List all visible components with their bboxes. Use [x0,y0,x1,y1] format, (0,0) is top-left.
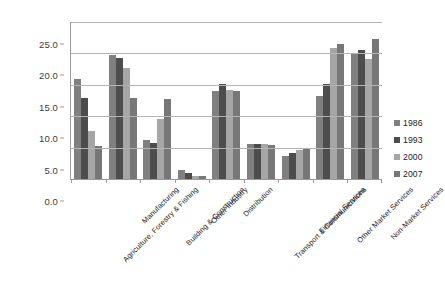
bar-2007-2 [164,99,171,179]
bar-group [71,22,106,179]
bar-2007-0 [95,146,102,179]
bar-2000-8 [365,59,372,179]
bar-2007-4 [233,91,240,179]
bar-2007-5 [268,145,275,179]
bar-1986-2 [143,140,150,179]
y-axis-tick-mark [60,106,64,107]
x-axis-tick-mark [209,179,210,183]
legend-item-1993[interactable]: 1993 [394,131,439,148]
y-axis-tick-label: 5.0 [44,164,58,175]
y-axis-tick-mark [60,201,64,202]
bar-1986-7 [316,96,323,179]
bar-group [278,22,313,179]
bar-group [347,22,382,179]
bar-2000-5 [261,144,268,179]
x-axis-tick-mark [140,179,141,183]
y-axis-tick-label: 15.0 [39,101,58,112]
legend-item-1986[interactable]: 1986 [394,114,439,131]
legend-swatch-icon [394,154,400,160]
bar-2000-3 [192,176,199,179]
x-axis-category-label: Agriculture, Forestry & Fishing [121,185,200,264]
x-axis-category-label: Distribution [241,185,274,218]
x-axis-tick-mark [347,179,348,183]
bar-1993-4 [219,84,226,179]
bar-1993-5 [254,144,261,179]
legend-label: 2000 [403,152,423,162]
x-axis-category-label: Transport & Communications [293,185,369,261]
gridline [71,53,382,54]
bar-2000-2 [157,119,164,179]
bar-2007-7 [337,44,344,179]
legend-swatch-icon [394,120,400,126]
y-axis-tick-mark [60,169,64,170]
legend-swatch-icon [394,171,400,177]
bar-group [140,22,175,179]
y-axis-tick-label: 10.0 [39,133,58,144]
bar-2000-7 [330,48,337,179]
gridline [71,85,382,86]
legend-label: 1986 [403,118,423,128]
bar-1993-3 [185,173,192,179]
bar-1986-3 [178,170,185,179]
bar-2000-6 [296,150,303,179]
bar-1986-5 [247,144,254,179]
x-axis-category-label: Other Industry [209,185,249,225]
plot-area [70,22,382,180]
bar-1993-1 [116,58,123,179]
y-axis-tick-mark [60,138,64,139]
x-axis-tick-mark [381,179,382,183]
bar-2007-1 [130,98,137,179]
y-axis-tick-mark [60,44,64,45]
x-axis-category-label: Other Market Services [355,185,415,245]
x-axis-tick-mark [175,179,176,183]
bar-2007-3 [199,176,206,179]
chart-legend: 1986199320002007 [394,114,439,182]
legend-label: 1993 [403,135,423,145]
x-axis-tick-mark [313,179,314,183]
x-axis-tick-mark [71,179,72,183]
bar-group [209,22,244,179]
bar-1986-6 [282,156,289,179]
legend-label: 2007 [403,169,423,179]
legend-item-2007[interactable]: 2007 [394,165,439,182]
x-axis-category-label: Financial Services [317,185,367,235]
bar-group [244,22,279,179]
y-axis: 0.05.010.015.020.025.0 [0,22,64,180]
x-axis-category-label: Manufacturing [140,185,180,225]
bar-1986-0 [74,79,81,179]
bar-1993-6 [289,153,296,179]
y-axis-tick-label: 25.0 [39,39,58,50]
y-axis-tick-mark [60,75,64,76]
gridline [71,22,382,23]
x-axis-category-label: Building & Construction [184,185,246,247]
bar-group [313,22,348,179]
x-axis-tick-mark [278,179,279,183]
bar-group [106,22,141,179]
gridline [71,116,382,117]
bar-group [175,22,210,179]
bar-2000-0 [88,131,95,179]
bars-layer [71,22,382,179]
bar-2007-6 [303,149,310,179]
x-axis-tick-mark [244,179,245,183]
y-axis-tick-label: 0.0 [44,196,58,207]
legend-item-2000[interactable]: 2000 [394,148,439,165]
bar-1993-0 [81,98,88,179]
bar-2000-4 [226,90,233,179]
bar-2007-8 [372,39,379,179]
bar-1986-4 [212,91,219,179]
bar-1993-8 [358,50,365,179]
y-axis-tick-label: 20.0 [39,70,58,81]
bar-1993-7 [323,84,330,179]
x-axis-category-label: Non-Market Services [389,185,445,242]
legend-swatch-icon [394,137,400,143]
x-axis-tick-mark [106,179,107,183]
gridline [71,148,382,149]
